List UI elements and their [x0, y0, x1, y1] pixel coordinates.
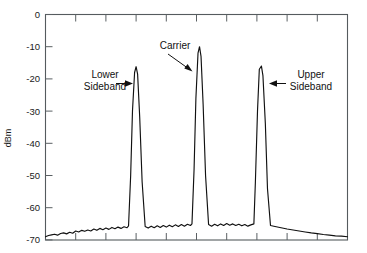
y-tick-label: -60	[26, 202, 40, 213]
lower-sideband-label-line2: Sideband	[84, 81, 126, 92]
y-tick-label: 0	[35, 9, 40, 20]
spectrum-analyzer-chart: 0 -10 -20 -30 -40 -50 -60 -70	[0, 0, 367, 253]
y-tick-label: -50	[26, 170, 40, 181]
lower-sideband-label-line1: Lower	[91, 69, 119, 80]
y-tick-label: -40	[26, 138, 40, 149]
y-tick-label: -70	[26, 234, 40, 245]
y-tick-label: -20	[26, 73, 40, 84]
upper-sideband-label-line1: Upper	[297, 69, 325, 80]
y-axis-title: dBm	[3, 129, 13, 148]
y-tick-label: -10	[26, 41, 40, 52]
upper-sideband-label-line2: Sideband	[290, 81, 332, 92]
y-tick-label: -30	[26, 106, 40, 117]
chart-background	[0, 0, 367, 253]
carrier-label-line1: Carrier	[160, 40, 191, 51]
